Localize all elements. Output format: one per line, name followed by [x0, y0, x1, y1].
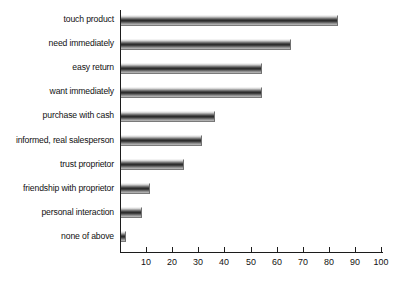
x-axis-tick — [224, 247, 225, 252]
x-axis-tick — [355, 247, 356, 252]
category-label: trust proprietor — [5, 159, 114, 169]
category-label: easy return — [5, 62, 114, 72]
x-axis-tick — [172, 247, 173, 252]
bar — [121, 15, 338, 26]
x-axis-tick-label: 80 — [317, 256, 340, 267]
x-axis-tick — [329, 247, 330, 252]
bar — [121, 63, 262, 74]
x-axis-tick — [120, 247, 121, 252]
category-label: none of above — [5, 231, 114, 241]
x-axis-tick-label: 70 — [291, 256, 314, 267]
x-axis-tick — [303, 247, 304, 252]
category-label: personal interaction — [5, 207, 114, 217]
y-axis-line — [120, 10, 121, 253]
x-axis-tick — [251, 247, 252, 252]
x-axis-tick — [198, 247, 199, 252]
x-axis-tick-label: 100 — [370, 256, 393, 267]
plot-area — [121, 10, 382, 252]
category-label: friendship with proprietor — [5, 183, 114, 193]
category-label: need immediately — [5, 38, 114, 48]
x-axis-tick — [381, 247, 382, 252]
bar — [121, 39, 291, 50]
bar — [121, 87, 262, 98]
bar — [121, 207, 142, 218]
category-label: informed, real salesperson — [5, 135, 114, 145]
category-label: want immediately — [5, 86, 114, 96]
x-axis-tick-label: 40 — [213, 256, 236, 267]
category-label: purchase with cash — [5, 110, 114, 120]
x-axis-line — [120, 252, 383, 253]
bar — [121, 231, 126, 242]
bar — [121, 135, 202, 146]
bar — [121, 111, 215, 122]
x-axis-tick-label: 90 — [343, 256, 366, 267]
bar — [121, 183, 150, 194]
bar-chart: touch productneed immediatelyeasy return… — [0, 0, 410, 289]
x-axis-tick — [277, 247, 278, 252]
x-axis-tick-label: 20 — [161, 256, 184, 267]
x-axis-tick-label: 50 — [239, 256, 262, 267]
category-axis: touch productneed immediatelyeasy return… — [0, 10, 118, 252]
category-label: touch product — [5, 14, 114, 24]
x-axis-tick-label: 10 — [135, 256, 158, 267]
x-axis-tick-label: 60 — [265, 256, 288, 267]
x-axis-tick-label: 30 — [187, 256, 210, 267]
x-axis-tick — [146, 247, 147, 252]
bar — [121, 159, 184, 170]
